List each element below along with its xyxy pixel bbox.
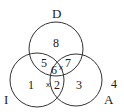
intersection-mark-2: x [46,80,50,89]
region-i-and-a: 2 [54,78,60,92]
region-outside: 4 [111,77,117,91]
region-d-i-a: 6 [51,63,57,77]
intersection-mark-1: x [59,63,63,72]
region-only-d: 8 [53,36,59,50]
set-label-i: I [4,92,8,107]
region-only-a: 3 [76,78,82,92]
region-d-and-a: 7 [65,56,71,70]
set-label-d: D [52,6,61,21]
venn-diagram: D I A 8 5 7 6 1 2 3 4 x x [0,0,124,112]
region-d-and-i: 5 [41,56,47,70]
set-label-a: A [104,92,114,107]
region-only-i: 1 [28,78,34,92]
